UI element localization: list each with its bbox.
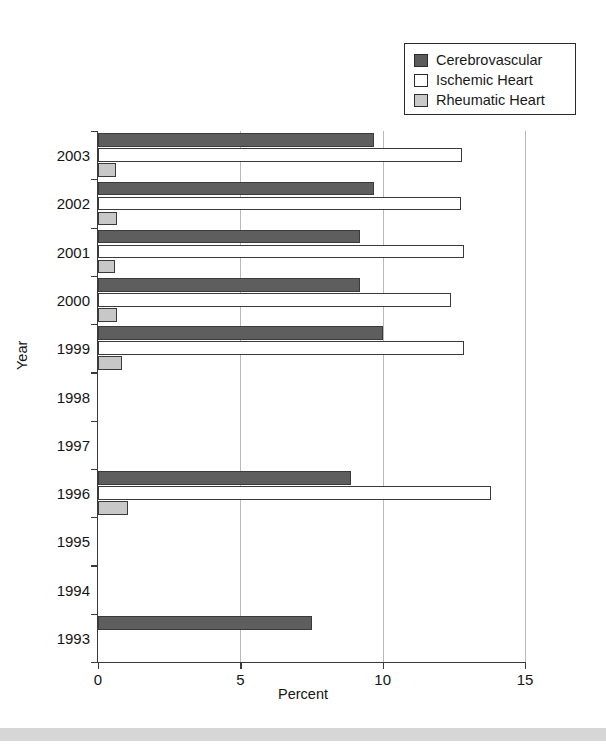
- y-axis-tick-label: 1993: [57, 629, 90, 646]
- bar-rheumatic-heart-1999: [98, 356, 122, 370]
- chart-legend: Cerebrovascular Ischemic Heart Rheumatic…: [404, 43, 576, 115]
- bar-cerebrovascular-1996: [98, 471, 351, 485]
- gridline: [525, 131, 526, 662]
- y-axis-line: [97, 131, 98, 662]
- legend-swatch-icon-ischemic-heart: [414, 74, 428, 87]
- bar-ischemic-heart-1999: [98, 341, 464, 355]
- y-axis-tick-label: 2000: [57, 291, 90, 308]
- bar-ischemic-heart-2000: [98, 293, 451, 307]
- legend-label-cerebrovascular: Cerebrovascular: [436, 53, 542, 68]
- bar-rheumatic-heart-2003: [98, 163, 116, 177]
- y-axis-tick: [91, 372, 98, 373]
- bar-rheumatic-heart-2002: [98, 212, 117, 226]
- x-axis-tick: [525, 662, 526, 669]
- y-axis-tick-label: 1996: [57, 485, 90, 502]
- y-axis-tick: [91, 179, 98, 180]
- bar-rheumatic-heart-2000: [98, 308, 117, 322]
- bar-cerebrovascular-2000: [98, 278, 360, 292]
- y-axis-tick: [91, 614, 98, 615]
- y-axis-tick: [91, 276, 98, 277]
- y-axis-tick-label: 2001: [57, 243, 90, 260]
- plot-area: 2003200220012000199919981997199619951994…: [98, 131, 525, 662]
- y-axis-tick-label: 2002: [57, 195, 90, 212]
- legend-item-ischemic-heart: Ischemic Heart: [414, 70, 567, 90]
- bar-ischemic-heart-1996: [98, 486, 491, 500]
- bar-ischemic-heart-2002: [98, 197, 461, 211]
- bar-cerebrovascular-2002: [98, 182, 374, 196]
- y-axis-tick-label: 2003: [57, 147, 90, 164]
- y-axis-tick: [91, 565, 98, 566]
- chart-figure: Cerebrovascular Ischemic Heart Rheumatic…: [0, 0, 606, 745]
- y-axis-tick-label: 1995: [57, 533, 90, 550]
- y-axis-tick-label: 1997: [57, 436, 90, 453]
- legend-item-rheumatic-heart: Rheumatic Heart: [414, 90, 567, 110]
- y-axis-tick: [91, 324, 98, 325]
- y-axis-tick: [91, 421, 98, 422]
- x-axis-line: [97, 662, 525, 663]
- y-axis-tick: [91, 228, 98, 229]
- plot-background: [98, 131, 525, 662]
- y-axis-tick: [91, 517, 98, 518]
- bar-rheumatic-heart-2001: [98, 260, 115, 274]
- y-axis-tick-labels: 2003200220012000199919981997199619951994…: [16, 131, 90, 662]
- y-axis-tick-label: 1999: [57, 340, 90, 357]
- footer-band: [0, 728, 606, 741]
- y-axis-tick: [91, 469, 98, 470]
- legend-item-cerebrovascular: Cerebrovascular: [414, 50, 567, 70]
- y-axis-tick: [91, 131, 98, 132]
- x-axis-tick: [383, 662, 384, 669]
- x-axis-tick: [98, 662, 99, 669]
- legend-label-rheumatic-heart: Rheumatic Heart: [436, 93, 545, 108]
- legend-label-ischemic-heart: Ischemic Heart: [436, 73, 533, 88]
- gridline: [240, 131, 241, 662]
- x-axis-title: Percent: [0, 686, 606, 702]
- x-axis-tick: [240, 662, 241, 669]
- bar-cerebrovascular-2003: [98, 133, 374, 147]
- y-axis-tick: [91, 662, 98, 663]
- y-axis-tick-label: 1994: [57, 581, 90, 598]
- bar-cerebrovascular-1993: [98, 616, 312, 630]
- bar-ischemic-heart-2001: [98, 245, 464, 259]
- gridline: [383, 131, 384, 662]
- legend-swatch-icon-rheumatic-heart: [414, 94, 428, 107]
- bar-cerebrovascular-1999: [98, 326, 383, 340]
- bar-cerebrovascular-2001: [98, 230, 360, 244]
- y-axis-tick-label: 1998: [57, 388, 90, 405]
- bar-rheumatic-heart-1996: [98, 501, 128, 515]
- legend-swatch-icon-cerebrovascular: [414, 54, 428, 67]
- bar-ischemic-heart-2003: [98, 148, 462, 162]
